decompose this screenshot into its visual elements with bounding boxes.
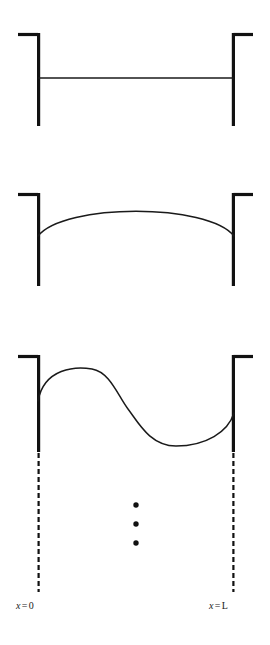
label-x-equals-0-value: 0	[29, 600, 34, 611]
ellipsis-dot-1	[133, 502, 138, 507]
panel-mode-1	[18, 33, 253, 126]
standing-wave-figure: x=0 x=L	[0, 0, 270, 645]
ellipsis-dot-3	[133, 540, 138, 545]
label-x-equals-L: x=L	[209, 600, 228, 611]
panel-mode-3	[18, 355, 253, 452]
panel-3-string-curve	[38, 368, 234, 446]
figure-canvas	[0, 0, 270, 645]
label-x-equals-L-operator: =	[214, 600, 222, 611]
panel-mode-2	[18, 193, 253, 286]
label-x-equals-L-value: L	[222, 600, 228, 611]
label-x-equals-0-operator: =	[21, 600, 29, 611]
panel-2-string-curve	[38, 211, 234, 236]
ellipsis-dot-2	[133, 521, 138, 526]
label-x-equals-0: x=0	[16, 600, 34, 611]
vertical-ellipsis	[133, 502, 138, 545]
